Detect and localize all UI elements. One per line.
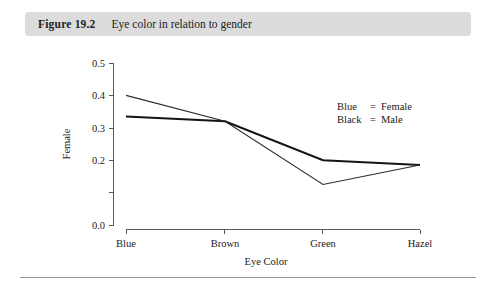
legend-equals-0: =	[370, 100, 381, 113]
y-axis-title: Female	[61, 128, 72, 159]
legend-row-male: Black = Male	[337, 113, 412, 126]
legend-key-black: Black	[337, 113, 370, 126]
x-axis-ticks	[127, 230, 421, 235]
y-tick-label-0.2: 0.2	[92, 155, 105, 166]
chart-legend: Blue = Female Black = Male	[337, 100, 412, 126]
x-axis-title: Eye Color	[245, 256, 288, 267]
line-chart: 0.5 0.4 0.3 0.2 0.0 Female Blue Brown Gr…	[0, 0, 496, 290]
y-axis-ticks	[109, 64, 114, 226]
y-tick-label-0.5: 0.5	[92, 58, 105, 69]
y-tick-label-0.0: 0.0	[92, 220, 105, 231]
legend-row-female: Blue = Female	[337, 100, 412, 113]
legend-key-blue: Blue	[337, 100, 370, 113]
x-tick-label-blue: Blue	[116, 238, 136, 249]
legend-value-female: Female	[381, 100, 412, 113]
y-tick-label-0.4: 0.4	[92, 90, 106, 101]
y-tick-label-0.3: 0.3	[92, 123, 105, 134]
bottom-divider	[20, 277, 476, 278]
x-tick-label-green: Green	[310, 238, 336, 249]
x-tick-label-brown: Brown	[211, 238, 240, 249]
legend-value-male: Male	[381, 113, 403, 126]
x-tick-label-hazel: Hazel	[408, 238, 433, 249]
chart-canvas: 0.5 0.4 0.3 0.2 0.0 Female Blue Brown Gr…	[0, 0, 496, 290]
legend-equals-1: =	[370, 113, 381, 126]
